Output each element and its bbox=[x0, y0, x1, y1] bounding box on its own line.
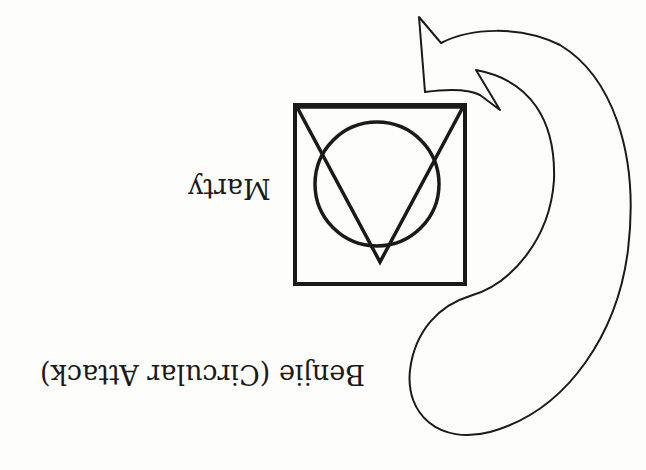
diagram-graphics bbox=[0, 0, 646, 470]
curved-arrow-shape bbox=[410, 17, 631, 435]
marty-symbol bbox=[295, 105, 465, 284]
diagram-canvas: Marty Benjie (Circular Attack) bbox=[0, 0, 646, 470]
label-benjie: Benjie (Circular Attack) bbox=[40, 358, 365, 390]
label-marty: Marty bbox=[188, 172, 271, 204]
